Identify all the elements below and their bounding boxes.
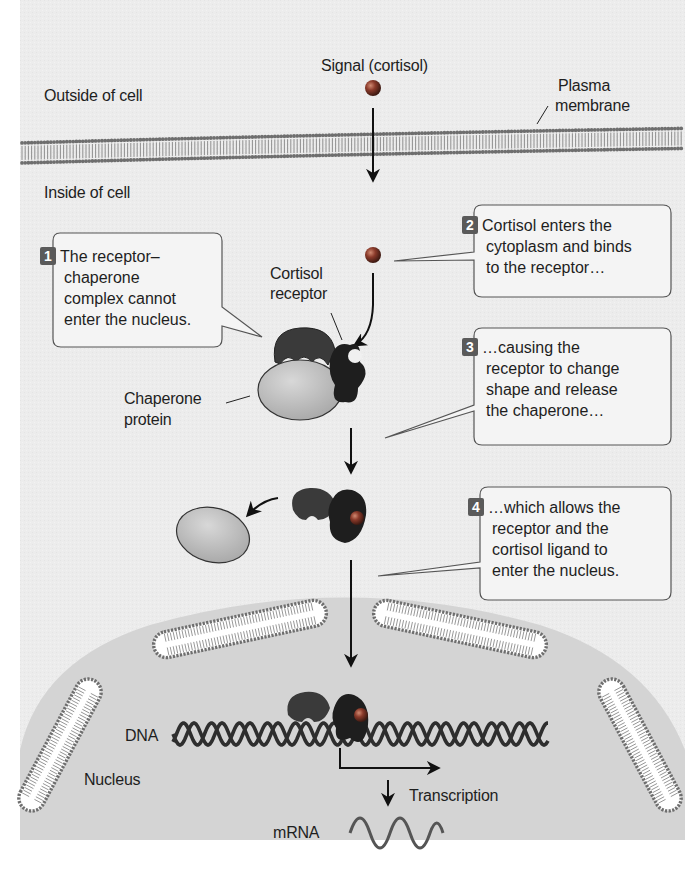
callout-3-line-4: the chaperone… [462, 402, 604, 419]
step-badge-4: 4 [468, 498, 484, 516]
step-badge-1: 1 [40, 247, 56, 265]
callout-3-line-1: …causing the [482, 339, 580, 356]
plasma-membrane-label-line2: membrane [555, 96, 630, 115]
cortisol-molecule-cytoplasm [365, 247, 381, 263]
mrna-label: mRNA [273, 823, 319, 842]
chaperone-protein-bound [258, 360, 342, 420]
diagram-canvas: Signal (cortisol) Outside of cell Plasma… [0, 0, 691, 870]
callout-2-line-2: cytoplasm and binds [462, 238, 632, 255]
callout-3-text: 3…causing the receptor to change shape a… [462, 337, 619, 421]
callout-2-text: 2Cortisol enters the cytoplasm and binds… [462, 215, 632, 278]
chaperone-label-line2: protein [124, 410, 172, 429]
callout-1-text: 1The receptor– chaperone complex cannot … [40, 246, 191, 330]
diagram-svg [0, 0, 691, 870]
callout-3-line-2: receptor to change [462, 360, 619, 377]
outside-of-cell-label: Outside of cell [44, 86, 142, 105]
cortisol-molecule-outside [365, 80, 381, 96]
dna-label: DNA [125, 726, 158, 745]
step-badge-3: 3 [462, 338, 478, 356]
transcription-label: Transcription [409, 786, 498, 805]
callout-4-line-1: …which allows the [488, 499, 621, 516]
cortisol-receptor-label-line1: Cortisol [270, 264, 323, 283]
cortisol-receptor-label-line2: receptor [270, 284, 327, 303]
callout-4-line-2: receptor and the [468, 520, 609, 537]
callout-4-line-3: cortisol ligand to [468, 541, 608, 558]
callout-1-line-3: complex cannot [40, 290, 176, 307]
callout-3-line-3: shape and release [462, 381, 618, 398]
plasma-membrane-label-line1: Plasma [558, 76, 610, 95]
cortisol-molecule-bound [350, 511, 364, 525]
callout-1-line-4: enter the nucleus. [40, 311, 191, 328]
nucleus-label: Nucleus [84, 770, 140, 789]
callout-2-line-1: Cortisol enters the [482, 217, 612, 234]
cortisol-molecule-nucleus [354, 708, 368, 722]
callout-1-line-1: The receptor– [60, 248, 160, 265]
inside-of-cell-label: Inside of cell [44, 183, 130, 202]
receptor-binding-site [348, 349, 362, 363]
callout-4-text: 4…which allows the receptor and the cort… [468, 497, 621, 581]
callout-4-line-4: enter the nucleus. [468, 562, 619, 579]
step-badge-2: 2 [462, 216, 478, 234]
signal-label: Signal (cortisol) [321, 56, 428, 75]
callout-1-line-2: chaperone [40, 269, 140, 286]
chaperone-label-line1: Chaperone [124, 389, 201, 408]
callout-2-line-3: to the receptor… [462, 259, 605, 276]
